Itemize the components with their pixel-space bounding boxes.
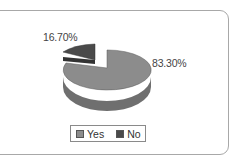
label-yes-pct: 83.30% (152, 57, 186, 69)
legend-item-yes: Yes (76, 128, 104, 140)
legend-label-no: No (127, 128, 140, 140)
slice-yes (63, 50, 151, 90)
legend: Yes No (70, 125, 146, 142)
legend-label-yes: Yes (87, 128, 104, 140)
legend-swatch-yes (76, 130, 84, 138)
legend-swatch-no (116, 130, 124, 138)
legend-item-no: No (116, 128, 140, 140)
label-no-pct: 16.70% (43, 31, 77, 43)
